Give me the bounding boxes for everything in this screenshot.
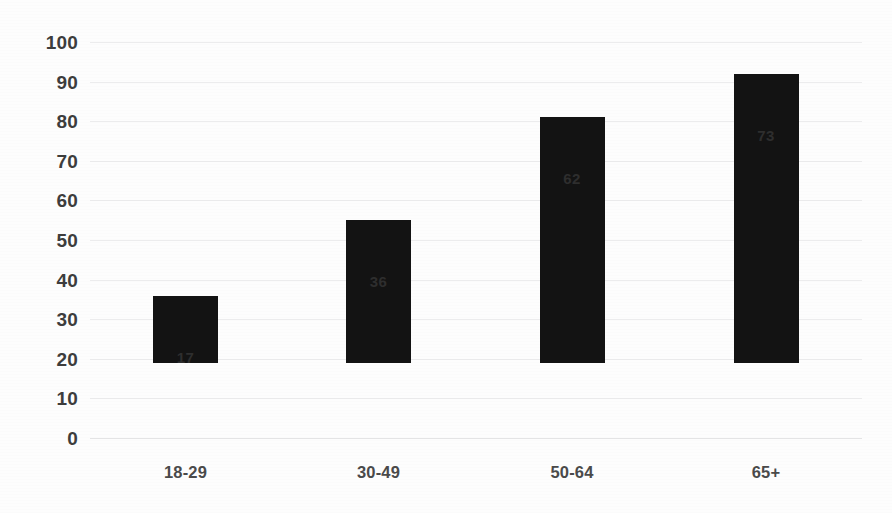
x-axis-category-label: 18-29: [111, 463, 261, 482]
bar-value-label: 36: [346, 273, 411, 290]
bars-layer: 17366273: [0, 0, 892, 438]
bar[interactable]: [540, 117, 605, 363]
bar-value-label: 73: [734, 127, 799, 144]
gridline: [90, 438, 862, 439]
bar-rect: [540, 117, 605, 363]
x-axis-category-label: 30-49: [304, 463, 454, 482]
bar-rect: [346, 220, 411, 363]
bar-chart: 1009080706050403020100 17366273 18-2930-…: [0, 0, 892, 513]
x-axis-category-label: 50-64: [497, 463, 647, 482]
bar-rect: [734, 74, 799, 363]
bar[interactable]: [734, 74, 799, 363]
bar[interactable]: [346, 220, 411, 363]
x-axis-category-label: 65+: [691, 463, 841, 482]
bar-value-label: 62: [540, 170, 605, 187]
bar-value-label: 17: [153, 349, 218, 366]
